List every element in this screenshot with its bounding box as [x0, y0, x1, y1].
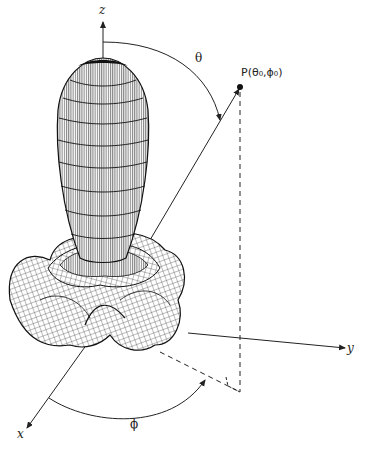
point-p: [237, 84, 243, 90]
phi-arc: [49, 380, 205, 419]
main-lobe: [57, 58, 148, 263]
phi-label: ϕ: [130, 418, 138, 430]
x-axis-label: x: [17, 428, 24, 440]
y-axis-label: y: [347, 342, 354, 354]
z-axis-label: z: [99, 4, 105, 16]
right-angle-mark: [226, 377, 240, 392]
point-p-label: P(θ₀,ϕ₀): [241, 67, 283, 78]
theta-label: θ: [195, 52, 202, 64]
radiation-pattern-diagram: [0, 0, 368, 452]
y-axis: [188, 333, 345, 348]
